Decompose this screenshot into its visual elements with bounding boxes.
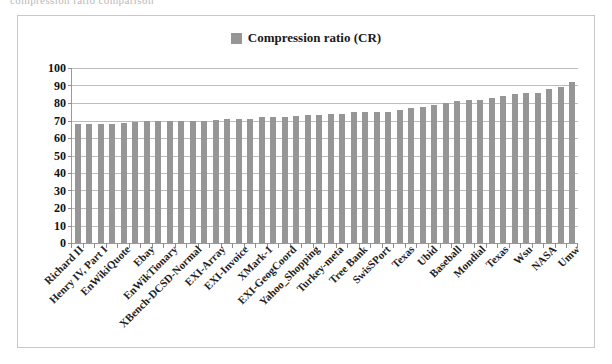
bar-slot bbox=[567, 68, 579, 243]
bar-slot bbox=[325, 68, 337, 243]
bar-slot bbox=[521, 68, 533, 243]
bar[interactable] bbox=[213, 120, 219, 243]
bar-slot bbox=[199, 68, 211, 243]
y-axis-tick-label: 70 bbox=[54, 115, 66, 127]
bar[interactable] bbox=[86, 124, 92, 243]
bar[interactable] bbox=[339, 114, 345, 244]
y-axis-tick-label: 10 bbox=[54, 220, 66, 232]
bar[interactable] bbox=[466, 100, 472, 243]
x-axis-tick-label: Texas bbox=[389, 243, 416, 270]
bar-slot bbox=[291, 68, 303, 243]
bar-slot bbox=[394, 68, 406, 243]
y-axis-tick-label: 100 bbox=[48, 62, 66, 74]
bar[interactable] bbox=[224, 119, 230, 243]
bar[interactable] bbox=[351, 112, 357, 243]
chart-legend: Compression ratio (CR) bbox=[18, 30, 594, 46]
bar-slot bbox=[509, 68, 521, 243]
bar-slot bbox=[118, 68, 130, 243]
y-axis-tick-label: 80 bbox=[54, 97, 66, 109]
bar[interactable] bbox=[293, 116, 299, 243]
x-axis-tick-label: Umw bbox=[556, 243, 582, 269]
bar[interactable] bbox=[167, 121, 173, 244]
y-axis-tick-label: 0 bbox=[60, 237, 66, 249]
bar[interactable] bbox=[190, 121, 196, 244]
bar[interactable] bbox=[75, 124, 81, 243]
bar[interactable] bbox=[270, 117, 276, 243]
bar[interactable] bbox=[385, 112, 391, 243]
bar[interactable] bbox=[362, 112, 368, 243]
bar-slot bbox=[371, 68, 383, 243]
bar[interactable] bbox=[132, 122, 138, 243]
bar[interactable] bbox=[144, 121, 150, 244]
bar[interactable] bbox=[535, 93, 541, 244]
bar-slot bbox=[84, 68, 96, 243]
bar-slot bbox=[452, 68, 464, 243]
bar[interactable] bbox=[477, 100, 483, 244]
clipped-header-text: compression ratio comparison bbox=[10, 0, 570, 6]
bar-slot bbox=[176, 68, 188, 243]
bar-slot bbox=[383, 68, 395, 243]
bar[interactable] bbox=[155, 121, 161, 244]
bar[interactable] bbox=[259, 117, 265, 243]
bar[interactable] bbox=[236, 119, 242, 243]
bar[interactable] bbox=[201, 121, 207, 244]
bar[interactable] bbox=[305, 115, 311, 243]
bar-series bbox=[72, 68, 578, 243]
y-axis-labels: 1009080706050403020100 bbox=[38, 68, 66, 243]
bar-slot bbox=[107, 68, 119, 243]
y-axis-tick-label: 20 bbox=[54, 202, 66, 214]
bar-slot bbox=[417, 68, 429, 243]
bar-slot bbox=[302, 68, 314, 243]
bar-slot bbox=[532, 68, 544, 243]
bar[interactable] bbox=[546, 89, 552, 243]
legend-label: Compression ratio (CR) bbox=[248, 30, 381, 46]
bar-slot bbox=[337, 68, 349, 243]
bar[interactable] bbox=[512, 94, 518, 243]
bar-slot bbox=[314, 68, 326, 243]
bar-slot bbox=[475, 68, 487, 243]
bar[interactable] bbox=[558, 87, 564, 243]
bar[interactable] bbox=[420, 107, 426, 244]
bar-slot bbox=[268, 68, 280, 243]
x-axis-labels: Richard IIHenry IV, Part IEnWikiQuoteEba… bbox=[71, 243, 591, 338]
bar[interactable] bbox=[500, 96, 506, 243]
bar[interactable] bbox=[109, 124, 115, 243]
bar[interactable] bbox=[316, 115, 322, 243]
bar-slot bbox=[72, 68, 84, 243]
bar-slot bbox=[245, 68, 257, 243]
bar[interactable] bbox=[523, 93, 529, 243]
bar-slot bbox=[429, 68, 441, 243]
bar[interactable] bbox=[98, 124, 104, 243]
bar-slot bbox=[348, 68, 360, 243]
bar-slot bbox=[463, 68, 475, 243]
chart-frame: Compression ratio (CR) 10090807060504030… bbox=[17, 15, 595, 348]
y-axis-tick-label: 90 bbox=[54, 80, 66, 92]
x-axis-tick-label: Texas bbox=[484, 243, 511, 270]
y-axis-tick-label: 40 bbox=[54, 167, 66, 179]
y-axis-tick-label: 50 bbox=[54, 150, 66, 162]
bar[interactable] bbox=[247, 119, 253, 243]
bar[interactable] bbox=[443, 103, 449, 243]
bar[interactable] bbox=[374, 112, 380, 243]
bar[interactable] bbox=[397, 110, 403, 243]
plot-wrapper: 1009080706050403020100 bbox=[38, 68, 578, 243]
bar-slot bbox=[360, 68, 372, 243]
bar[interactable] bbox=[178, 121, 184, 244]
bar-slot bbox=[406, 68, 418, 243]
bar[interactable] bbox=[489, 98, 495, 243]
bar[interactable] bbox=[282, 117, 288, 243]
bar-slot bbox=[279, 68, 291, 243]
bar-slot bbox=[187, 68, 199, 243]
bar-slot bbox=[256, 68, 268, 243]
x-axis-tick-label: NASA bbox=[528, 243, 558, 273]
y-axis-tick-label: 30 bbox=[54, 185, 66, 197]
bar[interactable] bbox=[408, 108, 414, 243]
bar[interactable] bbox=[431, 105, 437, 243]
bar-slot bbox=[141, 68, 153, 243]
bar[interactable] bbox=[569, 82, 575, 243]
bar[interactable] bbox=[454, 101, 460, 243]
bar[interactable] bbox=[328, 114, 334, 243]
bar-slot bbox=[498, 68, 510, 243]
bar[interactable] bbox=[121, 123, 127, 243]
bar-slot bbox=[164, 68, 176, 243]
